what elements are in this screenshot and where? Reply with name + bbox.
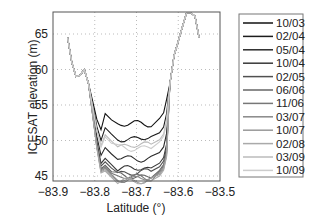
legend-label: 06/06 [276, 84, 305, 96]
series-line-10-03 [68, 13, 200, 130]
legend-label: 03/07 [276, 111, 305, 123]
legend: 10/0302/0405/0410/0402/0506/0611/0603/07… [239, 14, 305, 177]
x-tick-label: −83.8 [80, 185, 111, 199]
elevation-chart: −83.9−83.8−83.7−83.6−83.54550556065 Lati… [0, 0, 323, 220]
x-tick-label: −83.7 [121, 185, 152, 199]
series-line-02-04 [68, 13, 200, 142]
x-tick-label: −83.9 [38, 185, 69, 199]
legend-label: 10/03 [276, 17, 305, 29]
legend-label: 02/05 [276, 71, 305, 83]
legend-label: 10/07 [276, 124, 305, 136]
grid-lines [53, 12, 220, 181]
x-tick-label: −83.5 [205, 185, 236, 199]
legend-label: 05/04 [276, 44, 305, 56]
legend-label: 02/08 [276, 138, 305, 150]
legend-label: 10/09 [276, 164, 305, 176]
legend-label: 02/04 [276, 30, 305, 42]
y-tick-label: 65 [35, 27, 49, 41]
legend-label: 03/09 [276, 151, 305, 163]
legend-label: 10/04 [276, 57, 305, 69]
y-tick-label: 45 [35, 169, 49, 183]
series-line-05-04 [68, 13, 200, 163]
legend-label: 11/06 [276, 97, 304, 109]
y-axis-label: ICESAT elevation (m) [26, 40, 40, 155]
series-lines [68, 13, 200, 184]
axis-ticks: −83.9−83.8−83.7−83.6−83.54550556065 [35, 27, 236, 199]
x-tick-label: −83.6 [163, 185, 194, 199]
x-axis-label: Latitude (°) [107, 201, 166, 215]
